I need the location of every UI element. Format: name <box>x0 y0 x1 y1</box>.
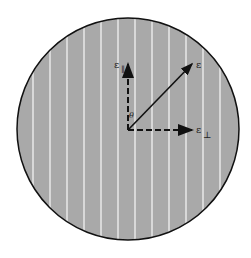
field-label: ε <box>196 59 201 70</box>
parallel-label: ε <box>114 59 119 70</box>
angle-label: θ <box>129 111 134 120</box>
perpendicular-label: ε <box>196 124 201 135</box>
parallel-subscript: ∥ <box>121 65 125 74</box>
polarizer-diagram: ε ε ∥ ε ⊥ θ <box>0 0 251 258</box>
perpendicular-subscript: ⊥ <box>203 130 211 140</box>
